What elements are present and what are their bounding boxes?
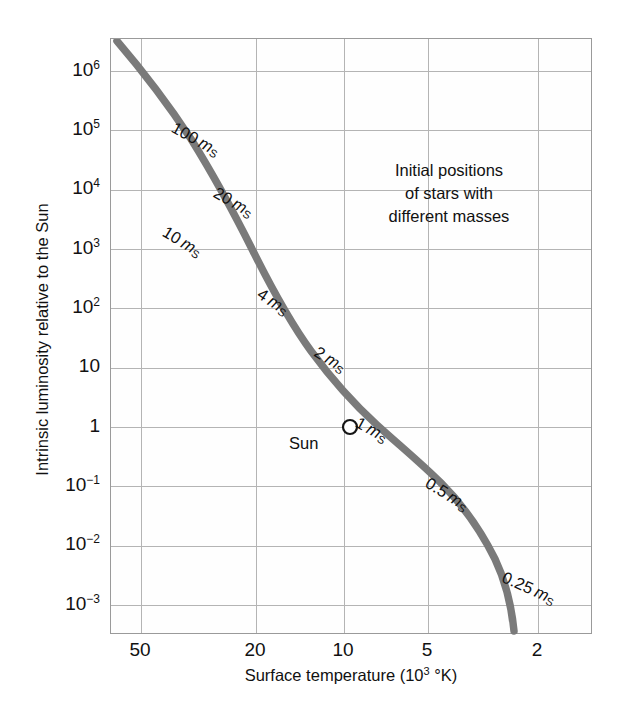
y-tick-10-label: 10 bbox=[79, 355, 100, 376]
y-tick-1e6: 106 bbox=[0, 60, 100, 79]
x-tick-20: 20 bbox=[244, 640, 265, 659]
x-tick-2: 2 bbox=[532, 640, 543, 659]
sun-label: Sun bbox=[289, 434, 318, 453]
x-axis-title-suffix: °K) bbox=[430, 666, 458, 684]
y-tick-1e-1-exp: −1 bbox=[86, 473, 100, 487]
y-tick-1e5-exp: 5 bbox=[93, 117, 100, 131]
y-tick-1e-3: 10−3 bbox=[0, 594, 100, 613]
x-axis-title: Surface temperature (103 °K) bbox=[110, 666, 592, 685]
x-tick-10: 10 bbox=[332, 640, 353, 659]
annotation-initial-positions: Initial positions of stars with differen… bbox=[339, 159, 559, 227]
y-tick-1-label: 1 bbox=[89, 415, 100, 436]
x-tick-5: 5 bbox=[422, 640, 433, 659]
y-tick-1e-2-exp: −2 bbox=[86, 532, 100, 546]
hr-diagram-chart: 106 105 104 103 102 10 1 10−1 10−2 10−3 … bbox=[0, 0, 623, 703]
y-axis-title: Intrinsic luminosity relative to the Sun bbox=[33, 130, 52, 550]
y-tick-1e4-exp: 4 bbox=[93, 176, 100, 190]
y-tick-1e2-exp: 2 bbox=[93, 295, 100, 309]
y-tick-1e-3-exp: −3 bbox=[86, 592, 100, 606]
plot-area: Initial positions of stars with differen… bbox=[110, 38, 592, 634]
y-tick-1e6-exp: 6 bbox=[93, 58, 100, 72]
y-tick-1e3-exp: 3 bbox=[93, 236, 100, 250]
x-axis-title-prefix: Surface temperature (10 bbox=[245, 666, 424, 684]
x-tick-50: 50 bbox=[129, 640, 150, 659]
